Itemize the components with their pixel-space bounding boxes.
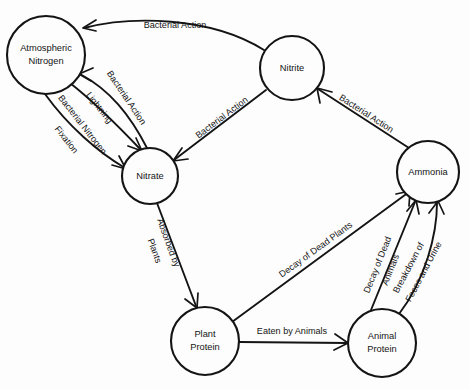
edge-nitrite-to-nitrate: Bacterial Action <box>173 90 266 161</box>
node-plant-protein[interactable]: Plant Protein <box>171 307 239 375</box>
edge-label-bacterial-action-ammonia-nitrite: Bacterial Action <box>337 92 395 135</box>
edge-nitrite-to-atmospheric-nitrogen: Bacterial Action <box>83 20 264 50</box>
node-nitrite[interactable]: Nitrite <box>260 36 324 100</box>
node-label-line2: Protein <box>190 342 219 352</box>
nitrogen-cycle-diagram: Bacterial Action Bacterial Action Lightn… <box>0 0 470 389</box>
edge-label-bacterial-action-nitrite-nitrate: Bacterial Action <box>194 95 250 141</box>
edge-atmospheric-nitrogen-to-nitrate-fixation: Bacterial Nitrogen Fixation <box>45 93 126 169</box>
node-animal-protein[interactable]: Animal Protein <box>348 309 416 377</box>
node-circle[interactable] <box>171 307 239 375</box>
edge-label-eaten-by-animals: Eaten by Animals <box>257 326 328 336</box>
node-circle[interactable] <box>348 309 416 377</box>
edge-path <box>239 342 347 343</box>
edge-ammonia-to-nitrite: Bacterial Action <box>317 88 409 148</box>
node-label-line1: Nitrite <box>280 63 304 73</box>
edge-label-bacterial-action-nitrite-atmospheric: Bacterial Action <box>144 20 207 30</box>
node-atmospheric-nitrogen[interactable]: Atmospheric Nitrogen <box>7 16 85 94</box>
node-label-line1: Plant <box>194 329 216 339</box>
edge-label-decay-of-dead-plants: Decay of Dead Plants <box>277 219 354 279</box>
node-label-line1: Nitrate <box>136 171 163 181</box>
edge-nitrate-to-plant-protein: Absorbed by Plants <box>146 203 198 308</box>
node-label-line1: Ammonia <box>408 167 448 177</box>
node-label-line2: Nitrogen <box>28 56 63 66</box>
edge-plant-protein-to-animal-protein: Eaten by Animals <box>239 326 348 350</box>
node-label-line2: Protein <box>367 344 396 354</box>
nitrogen-cycle-canvas: Bacterial Action Bacterial Action Lightn… <box>0 0 470 389</box>
node-ammonia[interactable]: Ammonia <box>397 141 459 203</box>
edge-path <box>318 89 409 148</box>
node-circle[interactable] <box>7 16 85 94</box>
node-label-line1: Animal <box>368 331 396 341</box>
node-label-line1: Atmospheric <box>20 43 72 53</box>
edge-label-plants: Plants <box>146 237 164 265</box>
node-nitrate[interactable]: Nitrate <box>122 148 178 204</box>
